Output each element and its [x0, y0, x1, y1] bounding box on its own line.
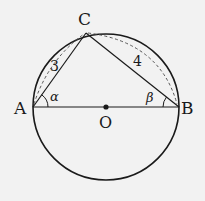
angle-arc-alpha	[42, 95, 48, 107]
length-label-cb: 4	[133, 53, 142, 69]
segment-ac	[33, 33, 86, 107]
label-c: C	[78, 9, 91, 29]
label-o: O	[99, 113, 112, 132]
angle-arc-beta	[163, 97, 167, 107]
dashed-arc-ac	[34, 34, 84, 104]
label-b: B	[181, 98, 194, 118]
label-a: A	[13, 98, 27, 118]
geometry-diagram: A B C O 3 4 α β	[0, 0, 205, 201]
angle-label-alpha: α	[50, 89, 59, 104]
length-label-ac: 3	[50, 58, 59, 74]
center-point-o	[103, 104, 108, 109]
angle-label-beta: β	[145, 90, 154, 105]
segment-cb	[86, 33, 179, 107]
